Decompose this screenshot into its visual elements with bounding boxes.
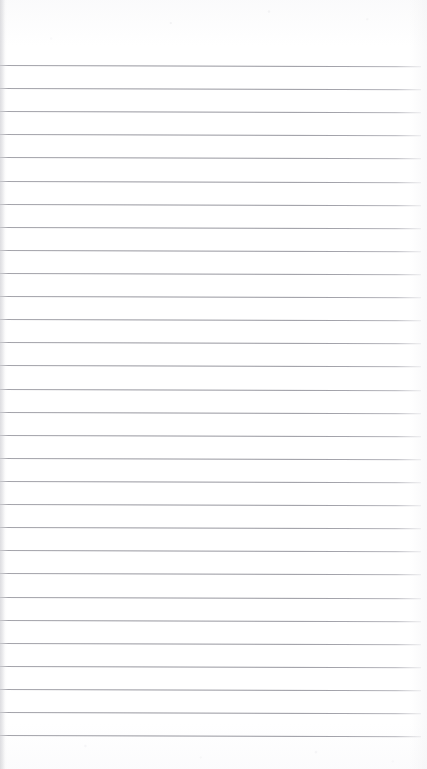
ruled-line — [0, 666, 421, 668]
ruled-line — [0, 365, 421, 367]
ruled-line — [0, 435, 421, 437]
ruled-line — [0, 342, 421, 344]
ruled-line — [0, 735, 421, 737]
ruled-line — [0, 527, 421, 529]
ruled-line — [0, 204, 421, 206]
ruled-line — [0, 620, 421, 622]
ruled-line — [0, 389, 421, 391]
ruled-line — [0, 157, 421, 159]
ruled-line — [0, 689, 421, 691]
ruled-line — [0, 412, 421, 414]
ruled-line — [0, 481, 421, 483]
ruled-line — [0, 134, 421, 136]
ruled-line — [0, 88, 421, 90]
ruled-line — [0, 227, 421, 229]
ruled-line — [0, 597, 421, 599]
ruled-line — [0, 250, 421, 252]
ruled-line — [0, 643, 421, 645]
ruled-lines-layer — [0, 0, 427, 769]
ruled-line — [0, 111, 421, 113]
ruled-line — [0, 573, 421, 575]
ruled-line — [0, 712, 421, 714]
ruled-line — [0, 296, 421, 298]
ruled-line — [0, 65, 421, 67]
ruled-line — [0, 181, 421, 183]
ruled-line — [0, 273, 421, 275]
ruled-line — [0, 550, 421, 552]
ruled-line — [0, 458, 421, 460]
ruled-line — [0, 319, 421, 321]
scanned-page — [0, 0, 427, 769]
ruled-line — [0, 504, 421, 506]
